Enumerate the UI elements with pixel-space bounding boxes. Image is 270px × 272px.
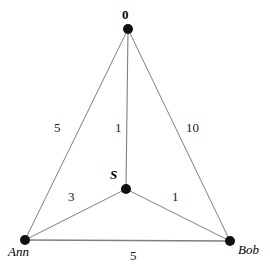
edges-group	[25, 29, 230, 241]
node-label-root: 0	[122, 8, 129, 21]
graph-figure: 0 S Ann Bob 5 1 10 3 1 5	[0, 0, 270, 272]
node-server[interactable]	[121, 184, 131, 194]
edge-weight-server-ann: 3	[68, 190, 75, 203]
edge-root-server	[126, 29, 128, 189]
edge-root-bob	[128, 29, 230, 241]
node-root[interactable]	[123, 24, 133, 34]
edge-ann-bob	[25, 240, 230, 241]
node-label-server: S	[110, 168, 117, 181]
node-label-ann: Ann	[8, 245, 29, 258]
node-label-bob: Bob	[238, 243, 259, 256]
edge-server-ann	[25, 189, 126, 240]
edge-weight-server-bob: 1	[172, 190, 179, 203]
edge-weight-root-server: 1	[115, 121, 122, 134]
edge-weight-ann-bob: 5	[130, 249, 137, 262]
node-bob[interactable]	[225, 236, 235, 246]
graph-canvas	[0, 0, 270, 272]
edge-root-ann	[25, 29, 128, 240]
edge-weight-root-ann: 5	[54, 121, 61, 134]
edge-weight-root-bob: 10	[186, 121, 199, 134]
